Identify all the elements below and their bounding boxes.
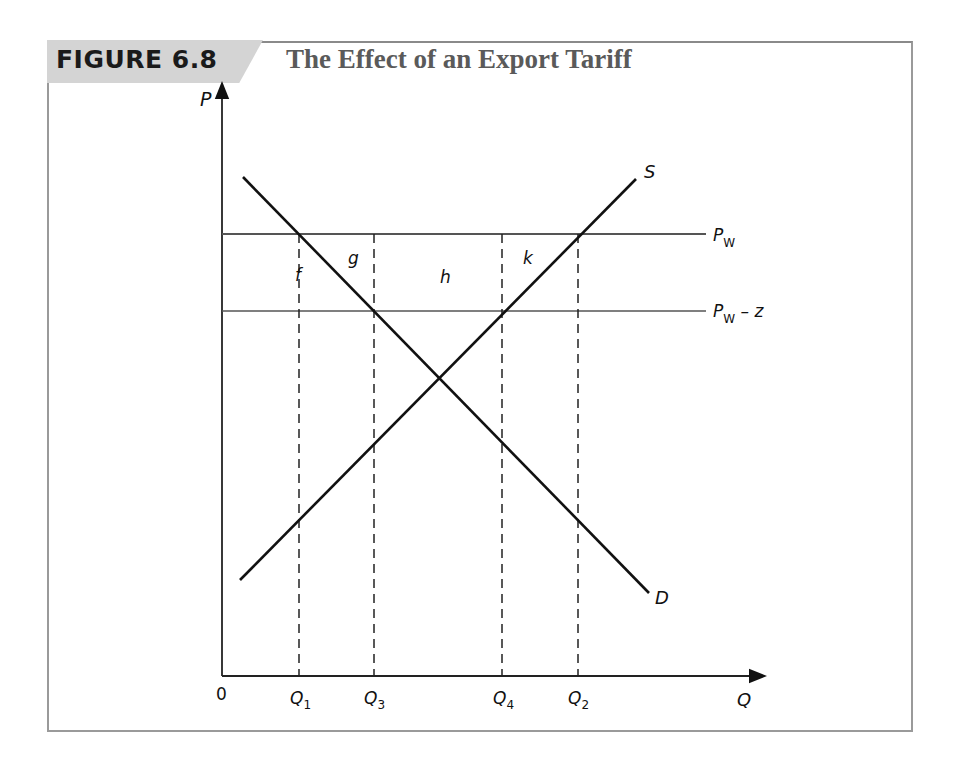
area-g-label: g [348,248,359,268]
q1-label: Q1 [290,688,311,712]
pw-minus-z-label: PW – z [713,301,764,326]
q3-label: Q3 [364,688,385,712]
demand-curve [243,177,649,593]
chart-plot: P Q 0 Q1 Q3 Q4 Q2 PW PW – z S D f g h k [0,0,957,775]
supply-label: S [644,161,655,182]
y-axis-label: P [200,88,212,110]
x-axis-label: Q [737,689,751,710]
origin-label: 0 [216,684,227,704]
pw-label: PW [713,225,735,250]
area-k-label: k [523,248,534,268]
area-f-label: f [295,265,304,285]
q4-label: Q4 [493,688,514,712]
demand-label: D [655,587,669,608]
q2-label: Q2 [568,688,589,712]
area-h-label: h [440,267,451,287]
